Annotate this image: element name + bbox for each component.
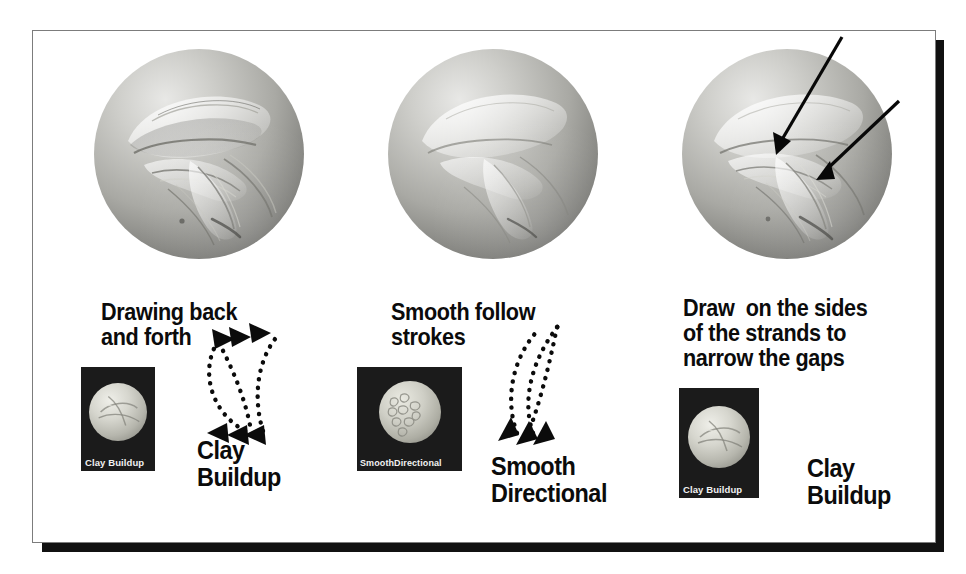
panel-1: Drawing back and forth xyxy=(49,31,349,542)
thumbnail-sphere xyxy=(89,383,147,441)
sphere-1-container xyxy=(49,49,349,287)
panel-2-brush-name: Smooth Directional xyxy=(491,453,607,507)
clay-buildup-brush-thumbnail-icon[interactable]: Clay Buildup xyxy=(81,367,155,471)
figure-frame: Drawing back and forth xyxy=(32,30,936,543)
smooth-directional-brush-thumbnail-icon[interactable]: SmoothDirectional xyxy=(357,367,462,471)
clay-buildup-brush-thumbnail-icon[interactable]: Clay Buildup xyxy=(679,388,759,498)
thumbnail-label: Clay Buildup xyxy=(683,484,742,495)
thumbnail-sphere xyxy=(688,406,750,468)
panel-2-headline: Smooth follow strokes xyxy=(391,299,535,349)
thumbnail-label: Clay Buildup xyxy=(85,457,144,468)
panel-2: Smooth follow strokes xyxy=(343,31,643,542)
panel-1-brush-name: Clay Buildup xyxy=(197,437,281,491)
sphere-2-container xyxy=(343,49,643,287)
panel-3-headline: Draw on the sides of the strands to narr… xyxy=(683,295,867,370)
panel-1-headline: Drawing back and forth xyxy=(101,299,237,349)
panel-3: Draw on the sides of the strands to narr… xyxy=(637,31,937,542)
panel-3-brush-name: Clay Buildup xyxy=(807,455,891,509)
sculpted-sphere-stage-2-icon xyxy=(388,49,598,259)
sculpted-sphere-stage-3-icon xyxy=(682,49,892,259)
thumbnail-sphere xyxy=(379,381,441,443)
figure-canvas: Drawing back and forth xyxy=(0,0,966,574)
sphere-3-container xyxy=(637,49,937,287)
sculpted-sphere-stage-1-icon xyxy=(94,49,304,259)
thumbnail-label: SmoothDirectional xyxy=(360,458,442,468)
